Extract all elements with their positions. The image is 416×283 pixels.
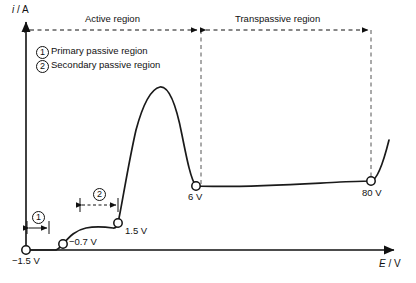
- datapoint-minus-0p7v: [59, 240, 67, 248]
- transpassive-region-label: Transpassive region: [235, 14, 320, 25]
- label-80v: 80 V: [362, 188, 382, 199]
- datapoint-1p5v: [114, 219, 122, 227]
- label-1p5v: 1.5 V: [125, 226, 147, 237]
- legend-marker-2-icon: 2: [36, 60, 49, 73]
- label-minus-1p5v: −1.5 V: [12, 256, 40, 267]
- datapoint-6v: [192, 182, 200, 190]
- legend-item-secondary-passive: 2Secondary passive region: [36, 60, 160, 73]
- polarization-curve-figure: i / A E / V Active region Transpassive r…: [0, 0, 416, 283]
- polarization-curve-path: [26, 87, 389, 250]
- datapoint-80v: [367, 177, 375, 185]
- plot-canvas: [0, 0, 416, 283]
- x-axis-label: E / V: [379, 258, 401, 270]
- label-6v: 6 V: [188, 192, 202, 203]
- active-region-label: Active region: [85, 14, 140, 25]
- bracket-badge-1-icon: 1: [32, 211, 45, 224]
- datapoint-minus-1p5v: [22, 246, 30, 254]
- bracket-badge-2-icon: 2: [93, 188, 106, 201]
- legend-label-primary-passive: Primary passive region: [51, 45, 148, 56]
- y-axis-label: i / A: [12, 4, 29, 16]
- label-minus-0p7v: −0.7 V: [69, 237, 97, 248]
- legend-marker-1-icon: 1: [36, 46, 49, 59]
- legend-label-secondary-passive: Secondary passive region: [51, 59, 160, 70]
- legend-item-primary-passive: 1Primary passive region: [36, 46, 160, 59]
- legend-box: 1Primary passive region 2Secondary passi…: [36, 46, 160, 74]
